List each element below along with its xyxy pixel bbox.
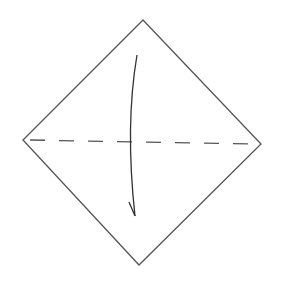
origami-diagram [0,0,283,283]
paper-square-diamond [23,20,261,265]
